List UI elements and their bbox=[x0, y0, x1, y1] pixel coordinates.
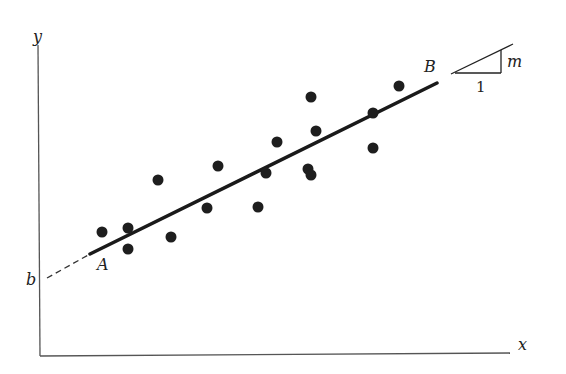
data-point bbox=[166, 232, 177, 243]
data-point bbox=[123, 223, 134, 234]
data-point bbox=[394, 81, 405, 92]
y-axis-label: y bbox=[32, 27, 43, 46]
data-point bbox=[213, 161, 224, 172]
x-axis bbox=[40, 353, 510, 356]
slope-rise-label: m bbox=[507, 52, 522, 71]
slope-hypotenuse bbox=[451, 44, 513, 74]
data-point bbox=[153, 175, 164, 186]
data-point bbox=[97, 227, 108, 238]
data-point bbox=[306, 170, 317, 181]
point-a-label: A bbox=[95, 255, 109, 274]
data-point bbox=[123, 244, 134, 255]
point-b-label: B bbox=[423, 57, 436, 76]
data-point bbox=[253, 202, 264, 213]
slope-run-label: 1 bbox=[476, 78, 486, 96]
y-axis bbox=[38, 45, 40, 356]
data-point bbox=[368, 143, 379, 154]
data-point bbox=[202, 203, 213, 214]
data-point bbox=[368, 108, 379, 119]
x-axis-label: x bbox=[518, 335, 527, 354]
intercept-dashed-line bbox=[47, 254, 90, 278]
data-point bbox=[311, 126, 322, 137]
data-point bbox=[272, 137, 283, 148]
regression-diagram: y x b A B bbox=[0, 0, 566, 374]
axes: y x bbox=[32, 27, 527, 356]
data-point bbox=[261, 168, 272, 179]
slope-triangle bbox=[451, 44, 513, 74]
data-point bbox=[306, 92, 317, 103]
intercept-label: b bbox=[26, 270, 36, 289]
